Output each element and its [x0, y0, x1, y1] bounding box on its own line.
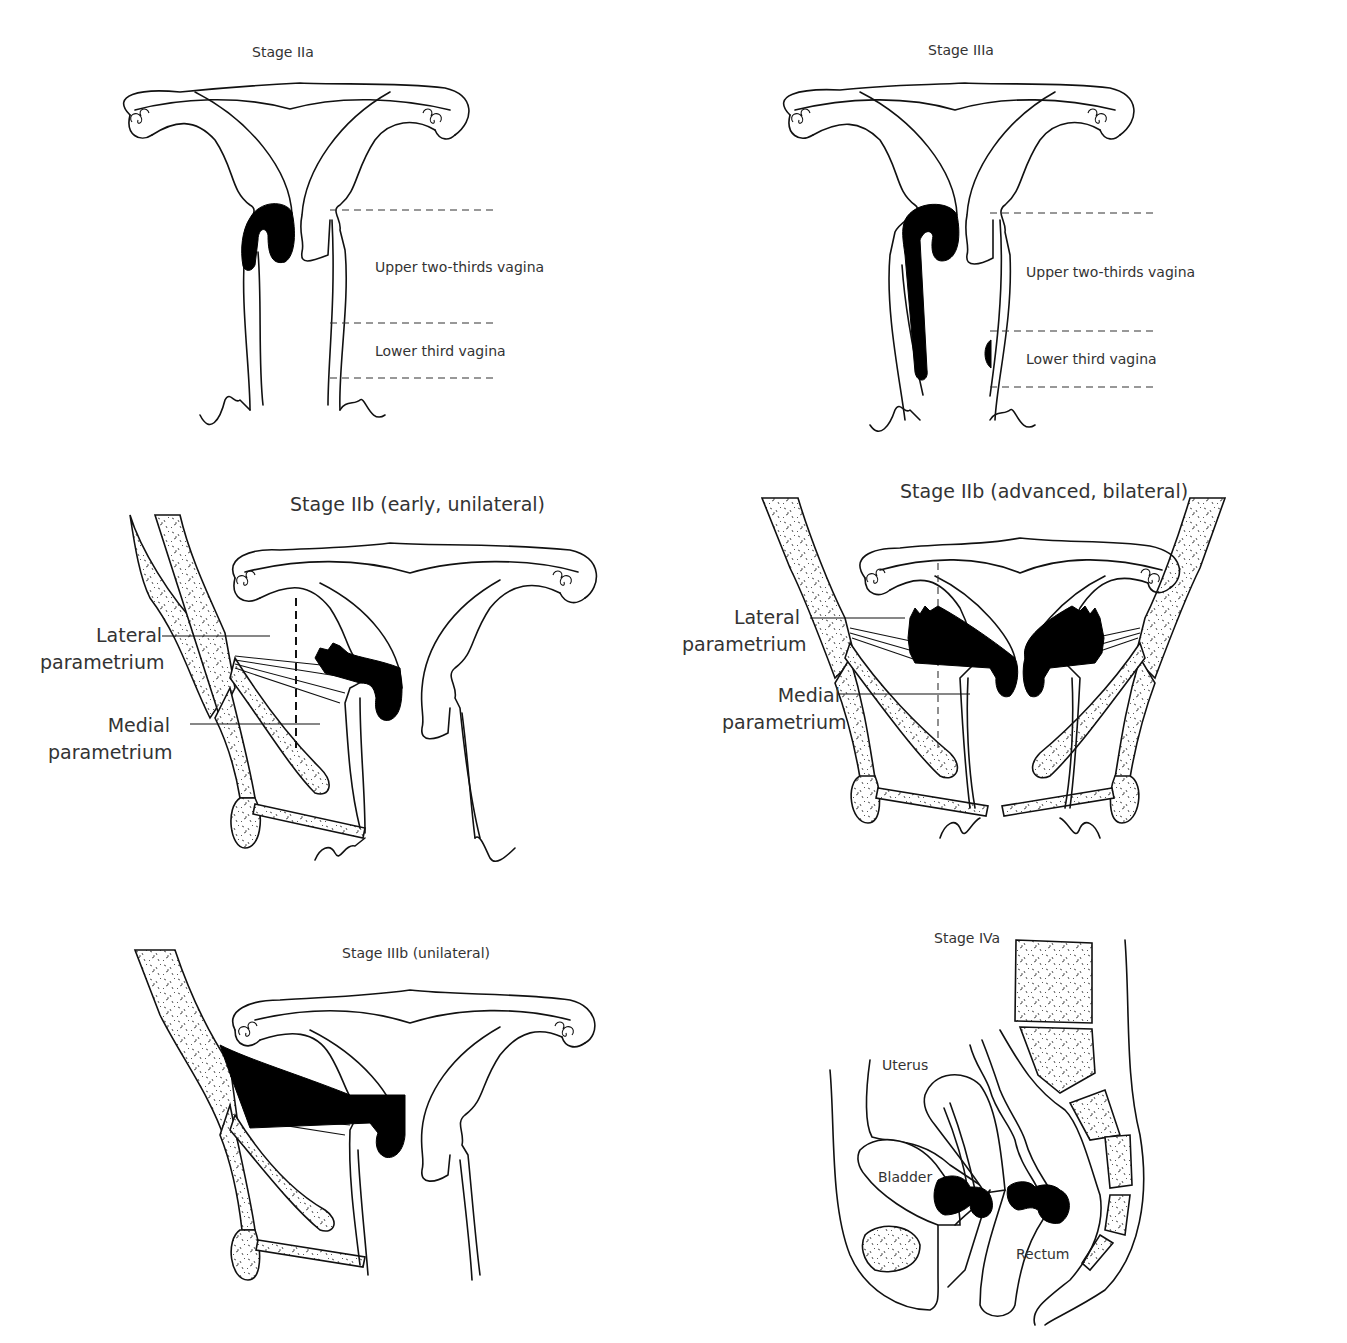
panel-stage-iia: Stage IIa Upper two-thirds vagina Lower … [100, 40, 560, 430]
pelvis-diagram [670, 478, 1320, 858]
pelvis-diagram [30, 488, 630, 868]
panel-stage-iiib-unilateral: Stage IIIb (unilateral) [120, 935, 620, 1295]
panel-stage-iib-early-unilateral: Stage IIb (early, unilateral) Lateral pa [30, 488, 630, 868]
sagittal-pelvis-diagram [820, 925, 1160, 1335]
panel-stage-iiia: Stage IIIa Upper two-thirds vagina Lower… [765, 40, 1225, 440]
label-upper-two-thirds-vagina: Upper two-thirds vagina [1026, 264, 1195, 280]
label-lateral-parametrium: parametrium [682, 633, 806, 655]
label-medial-parametrium: parametrium [48, 741, 172, 763]
label-medial: Medial [770, 684, 840, 706]
label-upper-two-thirds-vagina: Upper two-thirds vagina [375, 259, 544, 275]
label-bladder: Bladder [878, 1169, 932, 1185]
label-medial: Medial [104, 714, 170, 736]
label-rectum: Rectum [1016, 1246, 1069, 1262]
label-lateral: Lateral [732, 606, 800, 628]
label-lower-third-vagina: Lower third vagina [1026, 351, 1157, 367]
label-lateral-parametrium: parametrium [40, 651, 164, 673]
label-uterus: Uterus [882, 1057, 928, 1073]
panel-stage-iib-advanced-bilateral: Stage IIb (advanced, bilateral) [670, 478, 1320, 858]
label-lower-third-vagina: Lower third vagina [375, 343, 506, 359]
label-lateral: Lateral [96, 624, 160, 646]
label-medial-parametrium: parametrium [722, 711, 846, 733]
pelvis-diagram [120, 935, 620, 1295]
panel-stage-iva: Stage IVa Uterus Bladder Rectum [820, 925, 1160, 1335]
uterus-diagram [100, 40, 560, 430]
uterus-diagram [765, 40, 1225, 440]
